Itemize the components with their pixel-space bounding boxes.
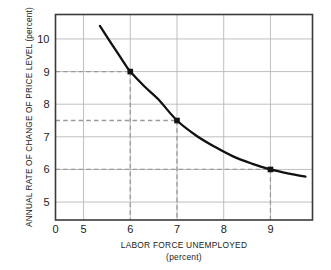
x-tick-label: 8 — [221, 223, 227, 235]
y-tick-label: 7 — [43, 131, 49, 143]
y-axis-title: ANNUAL RATE OF CHANGE OF PRICE LEVEL (pe… — [25, 7, 34, 227]
y-tick-label: 6 — [43, 163, 49, 175]
x-tick-label: 6 — [127, 223, 133, 235]
x-tick-label: 5 — [80, 223, 86, 235]
chart-background — [0, 0, 331, 270]
x-axis-title: LABOR FORCE UNEMPLOYED — [121, 240, 248, 250]
y-tick-label: 5 — [43, 196, 49, 208]
y-tick-label: 8 — [43, 98, 49, 110]
x-axis-title-unit: (percent) — [166, 252, 202, 262]
x-tick-label: 9 — [267, 223, 273, 235]
y-tick-label: 9 — [43, 66, 49, 78]
x-tick-label: 0 — [52, 223, 58, 235]
y-tick-label: 10 — [37, 33, 49, 45]
phillips-curve-chart: 056789 5678910 LABOR FORCE UNEMPLOYED (p… — [0, 0, 331, 270]
x-tick-label: 7 — [174, 223, 180, 235]
chart-canvas: 056789 5678910 LABOR FORCE UNEMPLOYED (p… — [0, 0, 331, 270]
